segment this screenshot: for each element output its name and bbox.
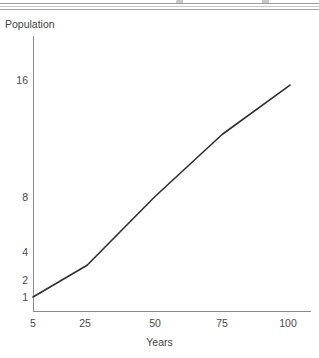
population-data-line xyxy=(33,85,290,297)
plot-area xyxy=(0,0,319,358)
population-growth-chart: Population Years 16 8 4 2 1 5 25 50 75 1… xyxy=(0,0,319,358)
